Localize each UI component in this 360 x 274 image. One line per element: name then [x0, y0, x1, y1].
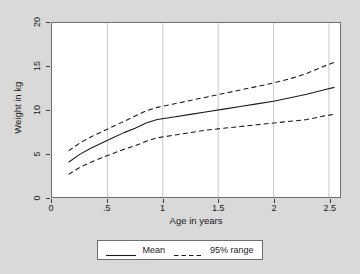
x-tick-label: 0 [48, 204, 53, 213]
x-tick-label: 2 [272, 204, 277, 213]
y-tick-label: 10 [33, 104, 42, 116]
y-tick-label: 5 [33, 148, 42, 160]
legend-solid-line-icon [106, 246, 136, 255]
curves-layer [52, 23, 340, 197]
legend-entry: 95% range [174, 246, 254, 255]
plot-area [51, 22, 341, 198]
y-tick-label: 0 [33, 192, 42, 204]
series-path [69, 87, 335, 162]
x-axis-title: Age in years [51, 216, 341, 226]
y-tick-label: 20 [33, 16, 42, 28]
x-tick-label: 1.5 [212, 204, 225, 213]
y-tick-mark [46, 198, 50, 199]
x-tick-label: 1 [160, 204, 165, 213]
y-tick-mark [46, 22, 50, 23]
y-axis-title: Weight in kg [13, 63, 23, 153]
chart-legend: Mean95% range [97, 240, 263, 260]
legend-label: 95% range [210, 246, 254, 255]
series-path [69, 62, 335, 151]
x-tick-label: .5 [103, 204, 111, 213]
y-tick-mark [46, 66, 50, 67]
y-tick-label: 15 [33, 60, 42, 72]
legend-label: Mean [142, 246, 165, 255]
y-tick-mark [46, 110, 50, 111]
legend-entry: Mean [106, 246, 165, 255]
chart-figure: Age in years Weight in kg Mean95% range … [0, 0, 360, 274]
legend-dashed-line-icon [174, 246, 204, 255]
y-tick-mark [46, 154, 50, 155]
series-path [69, 114, 335, 174]
x-tick-label: 2.5 [324, 204, 337, 213]
